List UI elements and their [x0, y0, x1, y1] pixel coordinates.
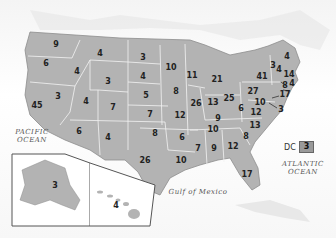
- state-value-wa: 9: [53, 41, 59, 49]
- state-value-ma: 14: [283, 71, 294, 79]
- state-value-nv: 3: [55, 93, 61, 101]
- state-value-pa: 27: [247, 88, 258, 96]
- state-value-sc: 8: [243, 133, 249, 141]
- state-value-il: 26: [190, 100, 201, 108]
- state-value-ne: 5: [143, 92, 149, 100]
- atlantic-ocean-label: ATLANTIC OCEAN: [282, 160, 324, 176]
- state-value-va: 12: [250, 109, 261, 117]
- state-value-mi: 21: [211, 76, 222, 84]
- state-value-ut: 4: [83, 98, 89, 106]
- state-value-in: 13: [207, 99, 218, 107]
- state-value-nm: 4: [105, 134, 111, 142]
- state-value-oh: 25: [223, 95, 234, 103]
- state-value-al: 9: [211, 145, 217, 153]
- pacific-ocean-label: PACIFIC OCEAN: [15, 128, 49, 144]
- state-value-ms: 7: [195, 145, 201, 153]
- state-value-wv: 6: [238, 105, 244, 113]
- map-shapes: [0, 0, 336, 238]
- state-value-hi: 4: [113, 202, 119, 210]
- state-value-ar: 6: [179, 134, 185, 142]
- state-value-ak: 3: [52, 182, 58, 190]
- dc-value-box: 3: [299, 141, 315, 153]
- state-value-nh: 4: [276, 66, 282, 74]
- state-value-ks: 7: [147, 111, 153, 119]
- state-value-ia: 8: [173, 88, 179, 96]
- state-value-nd: 3: [140, 54, 146, 62]
- state-value-or: 6: [43, 60, 49, 68]
- state-value-nc: 13: [249, 122, 260, 130]
- state-value-ri: 4: [289, 80, 295, 88]
- state-value-fl: 17: [241, 171, 252, 179]
- state-value-de: 3: [278, 106, 284, 114]
- state-value-ny: 41: [256, 73, 267, 81]
- state-value-mo: 12: [174, 112, 185, 120]
- state-value-me: 4: [284, 53, 290, 61]
- state-value-tn: 10: [207, 126, 218, 134]
- state-value-nj: 17: [279, 91, 290, 99]
- state-value-ct: 8: [282, 82, 288, 90]
- state-value-co: 7: [110, 104, 116, 112]
- state-value-mt: 4: [97, 50, 103, 58]
- state-value-ga: 12: [227, 143, 238, 151]
- state-value-sd: 4: [140, 73, 146, 81]
- state-value-ok: 8: [152, 130, 158, 138]
- state-value-wy: 3: [105, 78, 111, 86]
- state-value-la: 10: [175, 157, 186, 165]
- us-map: 9645344347643457826108126101126211325910…: [0, 0, 336, 238]
- state-value-ky: 9: [215, 115, 221, 123]
- state-value-wi: 11: [186, 72, 197, 80]
- state-value-id: 4: [74, 68, 80, 76]
- state-value-ca: 45: [31, 102, 42, 110]
- state-value-tx: 26: [139, 157, 150, 165]
- dc-legend: DC 3: [284, 141, 314, 153]
- state-value-mn: 10: [165, 64, 176, 72]
- state-value-vt: 3: [270, 62, 276, 70]
- state-value-md: 10: [254, 99, 265, 107]
- state-value-az: 6: [76, 128, 82, 136]
- dc-label: DC: [284, 143, 296, 152]
- gulf-of-mexico-label: Gulf of Mexico: [169, 188, 228, 196]
